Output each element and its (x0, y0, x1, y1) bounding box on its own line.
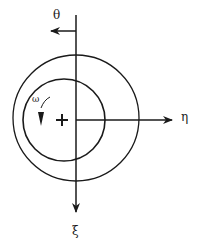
omega-label: ω (32, 95, 39, 104)
eta-label: η (181, 111, 188, 123)
diagram-canvas: θ η ξ ω (0, 0, 200, 251)
rotation-arrow-icon (38, 97, 50, 126)
xi-label: ξ (72, 225, 79, 237)
center-plus-icon (56, 114, 68, 126)
diagram-graphic (0, 0, 200, 251)
theta-label: θ (53, 9, 60, 21)
